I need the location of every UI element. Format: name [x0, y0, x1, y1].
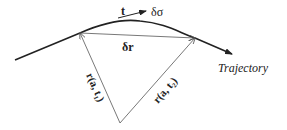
displacement-label: δr	[122, 40, 134, 54]
displacement-arrow	[80, 33, 195, 38]
trajectory-diagram: t δσ δr Trajectory r(a, t₁) r(a, t₂)	[0, 0, 287, 130]
tangent-label: t	[121, 4, 125, 18]
diagram-svg: t δσ δr Trajectory r(a, t₁) r(a, t₂)	[0, 0, 287, 130]
position-2-label: r(a, t₂)	[150, 74, 180, 106]
arc-length-label: δσ	[151, 5, 164, 19]
trajectory-label: Trajectory	[218, 61, 269, 75]
